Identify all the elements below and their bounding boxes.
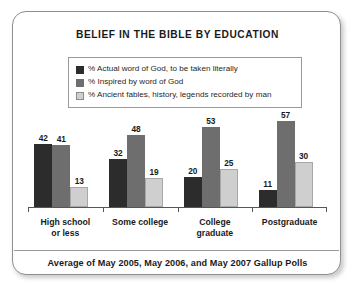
axis-tick [326, 207, 327, 212]
x-axis-tick-label: Postgraduate [252, 217, 327, 228]
axis-tick [28, 207, 29, 212]
x-axis-tick-label: Collegegraduate [178, 217, 253, 239]
bar-column[interactable]: 11 [259, 117, 277, 207]
bar-column[interactable]: 19 [145, 117, 163, 207]
bar-column[interactable]: 13 [70, 117, 88, 207]
bar[interactable] [277, 121, 295, 207]
bar[interactable] [184, 177, 202, 207]
divider [14, 250, 339, 251]
bar-value-label: 13 [67, 177, 91, 185]
bar-column[interactable]: 30 [295, 117, 313, 207]
bar-group: 205325 [184, 117, 238, 207]
legend-item: % Inspired by word of God [76, 76, 295, 89]
axis-tick [103, 207, 104, 212]
legend-item-label: % Ancient fables, history, legends recor… [88, 91, 271, 99]
x-axis-tick-label: High schoolor less [28, 217, 103, 239]
bar[interactable] [109, 159, 127, 207]
x-axis-tick-label-line: Some college [103, 217, 178, 228]
legend-item: % Ancient fables, history, legends recor… [76, 89, 295, 102]
bar[interactable] [220, 169, 238, 207]
x-axis [28, 207, 327, 213]
legend-swatch-icon [76, 66, 84, 74]
chart-legend: % Actual word of God, to be taken litera… [68, 57, 302, 108]
bar-group-bars: 205325 [184, 117, 238, 207]
bar-group-bars: 115730 [259, 117, 313, 207]
x-axis-tick-label-line: College [178, 217, 253, 228]
bar[interactable] [34, 144, 52, 207]
x-axis-tick-label-line: High school [28, 217, 103, 228]
axis-tick [178, 207, 179, 212]
bar[interactable] [145, 178, 163, 207]
bar-column[interactable]: 20 [184, 117, 202, 207]
bar-group-bars: 324819 [109, 117, 163, 207]
x-axis-tick-labels: High schoolor lessSome collegeCollegegra… [28, 217, 327, 247]
chart-card: BELIEF IN THE BIBLE BY EDUCATION % Actua… [12, 11, 341, 275]
bar-value-label: 19 [142, 168, 166, 176]
bar-column[interactable]: 48 [127, 117, 145, 207]
footer-note: Average of May 2005, May 2006, and May 2… [13, 258, 342, 268]
axis-tick [252, 207, 253, 212]
bar-column[interactable]: 42 [34, 117, 52, 207]
bar-column[interactable]: 25 [220, 117, 238, 207]
page-title: BELIEF IN THE BIBLE BY EDUCATION [13, 29, 342, 40]
plot-area: 424113324819205325115730 [28, 117, 327, 207]
legend-item: % Actual word of God, to be taken litera… [76, 63, 295, 76]
x-axis-tick-label: Some college [103, 217, 178, 228]
bar[interactable] [202, 127, 220, 207]
bar-group: 324819 [109, 117, 163, 207]
bar-value-label: 25 [217, 159, 241, 167]
bar-value-label: 30 [292, 152, 316, 160]
bar-column[interactable]: 57 [277, 117, 295, 207]
legend-item-label: % Inspired by word of God [88, 78, 183, 86]
legend-item-label: % Actual word of God, to be taken litera… [88, 65, 238, 73]
bar[interactable] [295, 162, 313, 207]
x-axis-tick-label-line: graduate [178, 228, 253, 239]
x-axis-tick-label-line: Postgraduate [252, 217, 327, 228]
bar-group-bars: 424113 [34, 117, 88, 207]
bar[interactable] [259, 190, 277, 207]
bar-column[interactable]: 41 [52, 117, 70, 207]
bar[interactable] [70, 187, 88, 207]
x-axis-tick-label-line: or less [28, 228, 103, 239]
bar-group: 424113 [34, 117, 88, 207]
legend-swatch-icon [76, 79, 84, 87]
legend-swatch-icon [76, 92, 84, 100]
bar-group: 115730 [259, 117, 313, 207]
